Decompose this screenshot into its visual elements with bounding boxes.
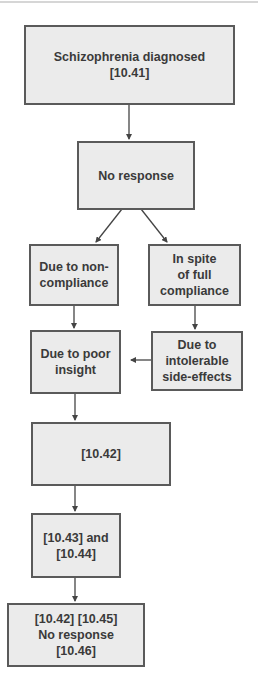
node-label: [10.43] and [10.44]: [43, 530, 108, 562]
node-label: Due to poor insight: [40, 346, 110, 378]
node-schizophrenia-diagnosed: Schizophrenia diagnosed [10.41]: [24, 25, 235, 105]
node-full-compliance: In spite of full compliance: [148, 244, 241, 306]
node-label: [10.42]: [81, 446, 121, 462]
top-divider: [0, 1, 258, 3]
node-poor-insight: Due to poor insight: [30, 330, 121, 394]
node-label: No response: [98, 168, 174, 184]
node-ref-10-42: [10.42]: [31, 422, 171, 486]
node-final-no-response: [10.42] [10.45] No response [10.46]: [7, 603, 145, 667]
arrow-no-response-to-full-compliance: [141, 209, 167, 242]
node-label: [10.42] [10.45] No response [10.46]: [35, 611, 118, 659]
arrow-no-response-to-non-compliance: [96, 209, 122, 242]
node-label: Schizophrenia diagnosed [10.41]: [54, 49, 205, 81]
node-label: In spite of full compliance: [160, 251, 229, 299]
node-label: Due to non- compliance: [39, 259, 108, 291]
node-no-response: No response: [77, 141, 195, 210]
node-non-compliance: Due to non- compliance: [29, 244, 119, 306]
node-side-effects: Due to intolerable side-effects: [151, 331, 243, 391]
node-label: Due to intolerable side-effects: [162, 337, 231, 385]
node-ref-10-43-44: [10.43] and [10.44]: [31, 513, 121, 578]
